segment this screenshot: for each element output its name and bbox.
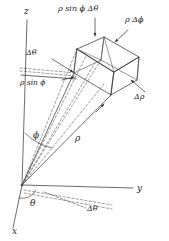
radius-ray-rho <box>22 73 111 185</box>
label-rho: ρ <box>75 134 80 143</box>
label-rho-sin-phi-dtheta: ρ sin ϕ Δθ <box>58 5 98 13</box>
leader-dtheta-upper <box>52 59 73 72</box>
leader-drho <box>131 80 145 92</box>
leader-rho-tick <box>96 104 104 112</box>
dtheta-lower-wedge <box>24 190 112 209</box>
label-dtheta-upper: Δθ <box>26 49 37 57</box>
axis-label-x: x <box>12 227 17 236</box>
axis-x <box>13 185 22 228</box>
figure-canvas: z y x ρ sin ϕ Δθ ρ Δϕ Δρ Δθ ρ sin ϕ ϕ ρ … <box>0 0 169 241</box>
axis-z <box>22 20 27 185</box>
label-phi: ϕ <box>33 131 39 140</box>
leader-dtheta-lower <box>44 192 86 208</box>
label-drho: Δρ <box>134 93 144 101</box>
label-rho-sin-phi: ρ sin ϕ <box>20 79 45 87</box>
spherical-volume-element-diagram <box>0 0 169 241</box>
axis-label-z: z <box>24 7 29 16</box>
leader-rho-dphi <box>115 30 128 42</box>
dtheta-upper-wedge <box>20 68 76 76</box>
label-rho-dphi: ρ Δϕ <box>125 16 143 24</box>
volume-element-box <box>74 37 139 95</box>
label-theta: θ <box>30 199 35 208</box>
axis-label-y: y <box>137 184 142 193</box>
label-dtheta-lower: Δθ <box>87 205 98 213</box>
axis-y <box>22 185 133 188</box>
